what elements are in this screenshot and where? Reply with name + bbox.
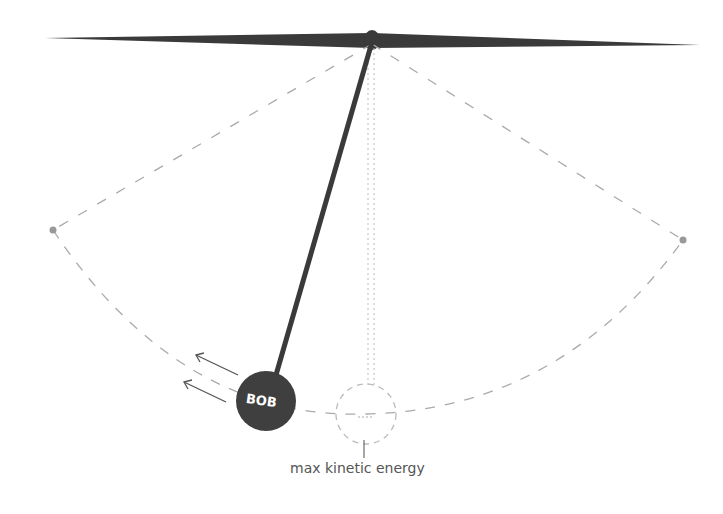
pendulum-diagram [0,0,723,514]
right-extreme-radius [372,44,683,240]
left-extreme-point [50,227,57,234]
right-extreme-point [680,237,687,244]
swing-arc [53,230,683,414]
rest-position-label: max kinetic energy [290,460,425,476]
motion-arrows [184,353,238,402]
